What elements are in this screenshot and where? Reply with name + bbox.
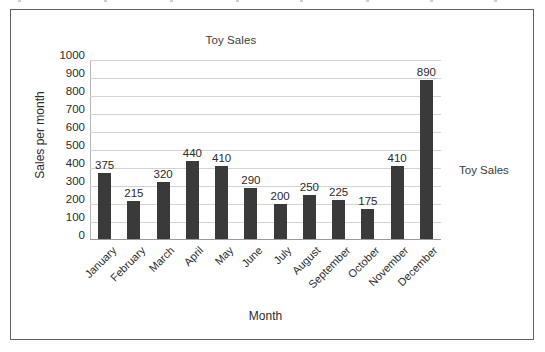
scan-speck xyxy=(300,0,303,2)
y-tick-label: 600 xyxy=(39,122,85,132)
x-tick-slot: December xyxy=(412,242,441,304)
legend-entry-toy-sales: Toy Sales xyxy=(459,164,509,176)
scan-speck xyxy=(236,0,239,2)
x-tick-label-text: July xyxy=(271,244,293,266)
chart-figure-frame: Toy Sales Sales per month 10009008007006… xyxy=(10,9,534,340)
scan-speck xyxy=(104,0,107,2)
x-tick-label-text: April xyxy=(182,244,206,268)
bar-slot: 200 xyxy=(266,60,295,240)
bar-slot: 215 xyxy=(119,60,148,240)
bar-slot: 225 xyxy=(324,60,353,240)
y-tick-label: 400 xyxy=(39,158,85,168)
chart-title: Toy Sales xyxy=(11,34,451,46)
x-tick-slot: July xyxy=(266,242,295,304)
y-tick-label: 0 xyxy=(39,230,85,240)
bar xyxy=(244,188,257,240)
x-tick-slot: April xyxy=(178,242,207,304)
x-axis-tick-labels: JanuaryFebruaryMarchAprilMayJuneJulyAugu… xyxy=(90,242,441,304)
scan-speck xyxy=(430,0,433,2)
bar-slot: 290 xyxy=(236,60,265,240)
bar-value-label: 890 xyxy=(404,66,448,78)
y-tick-label: 100 xyxy=(39,212,85,222)
bar xyxy=(303,195,316,240)
x-tick-label-text: May xyxy=(212,244,235,267)
bar-slot: 440 xyxy=(178,60,207,240)
y-tick-label: 900 xyxy=(39,68,85,78)
scan-speck xyxy=(366,0,369,2)
scan-speck xyxy=(18,0,21,2)
y-tick-label: 200 xyxy=(39,194,85,204)
x-tick-label-text: June xyxy=(239,244,264,269)
y-tick-label: 300 xyxy=(39,176,85,186)
y-tick-label: 1000 xyxy=(39,50,85,60)
bar xyxy=(215,166,228,240)
scan-speck xyxy=(494,0,497,2)
bar-slot: 410 xyxy=(207,60,236,240)
x-tick-slot: March xyxy=(149,242,178,304)
chart-legend: Toy Sales xyxy=(459,160,533,178)
x-tick-slot: May xyxy=(207,242,236,304)
scan-speck xyxy=(170,0,173,2)
x-tick-label-text: March xyxy=(147,244,177,274)
bar-slot: 250 xyxy=(295,60,324,240)
y-tick-label: 800 xyxy=(39,86,85,96)
bar xyxy=(98,173,111,241)
x-tick-slot: February xyxy=(119,242,148,304)
bar-slot: 375 xyxy=(90,60,119,240)
y-axis-tick-labels: 10009008007006005004003002001000 xyxy=(39,55,85,231)
scan-artifact xyxy=(0,0,545,4)
y-tick-label: 500 xyxy=(39,140,85,150)
x-tick-slot: June xyxy=(236,242,265,304)
x-axis-title: Month xyxy=(90,309,441,323)
y-tick-label: 700 xyxy=(39,104,85,114)
